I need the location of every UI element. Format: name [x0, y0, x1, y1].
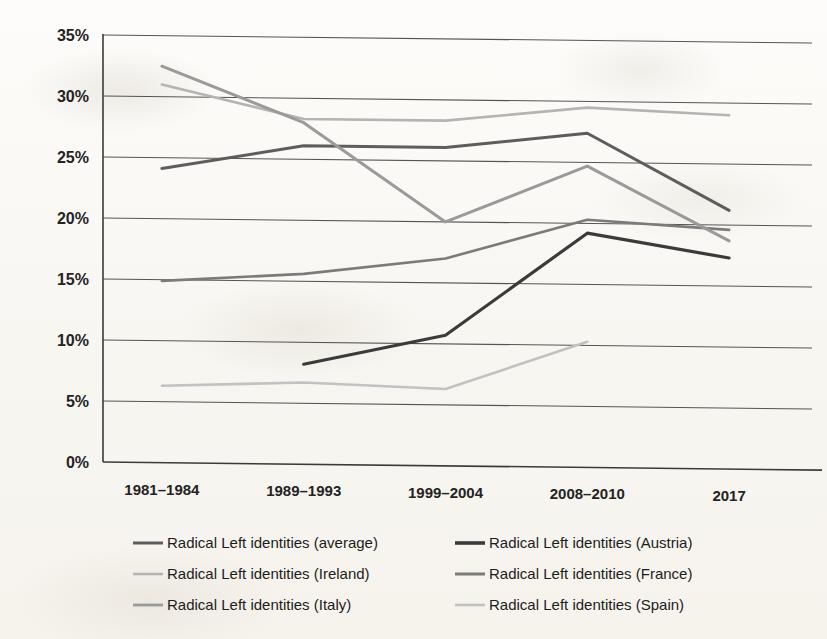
gridline-10% [103, 340, 812, 348]
legend-entry-label: Radical Left identities (France) [489, 565, 692, 582]
gridline-20% [103, 218, 812, 226]
line-chart-figure: 0%5%10%15%20%25%30%35% 1981–19841989–199… [0, 0, 827, 639]
gridline-35% [103, 35, 812, 43]
chart-legend: Radical Left identities (average)Radical… [133, 534, 692, 613]
legend-entry-label: Radical Left identities (Spain) [489, 596, 684, 613]
x-axis-tick-labels: 1981–19841989–19931999–20042008–20102017 [124, 481, 745, 504]
y-tick-label: 25% [57, 149, 89, 166]
x-tick-label: 1989–1993 [266, 482, 341, 499]
legend-entry-label: Radical Left identities (average) [167, 534, 378, 551]
legend-entry-label: Radical Left identities (Austria) [489, 534, 692, 551]
x-axis-spine [103, 462, 822, 470]
legend-entry-label: Radical Left identities (Ireland) [167, 565, 370, 582]
chart-canvas: 0%5%10%15%20%25%30%35% 1981–19841989–199… [0, 0, 827, 639]
x-tick-label: 1999–2004 [408, 484, 484, 501]
y-tick-label: 10% [57, 332, 89, 349]
series-line [162, 220, 729, 281]
gridlines [103, 35, 812, 409]
y-tick-label: 20% [57, 210, 89, 227]
y-tick-label: 0% [66, 454, 89, 471]
y-tick-label: 15% [57, 271, 89, 288]
y-tick-label: 5% [66, 393, 89, 410]
series-line [162, 133, 729, 210]
x-tick-label: 2008–2010 [550, 485, 625, 502]
y-tick-label: 30% [57, 88, 89, 105]
x-tick-label: 1981–1984 [124, 481, 200, 498]
gridline-15% [103, 279, 812, 287]
y-axis-tick-labels: 0%5%10%15%20%25%30%35% [57, 27, 89, 471]
x-tick-label: 2017 [712, 487, 745, 504]
legend-entry-label: Radical Left identities (Italy) [167, 596, 351, 613]
gridline-5% [103, 401, 812, 409]
data-series [162, 66, 729, 389]
y-tick-label: 35% [57, 27, 89, 44]
